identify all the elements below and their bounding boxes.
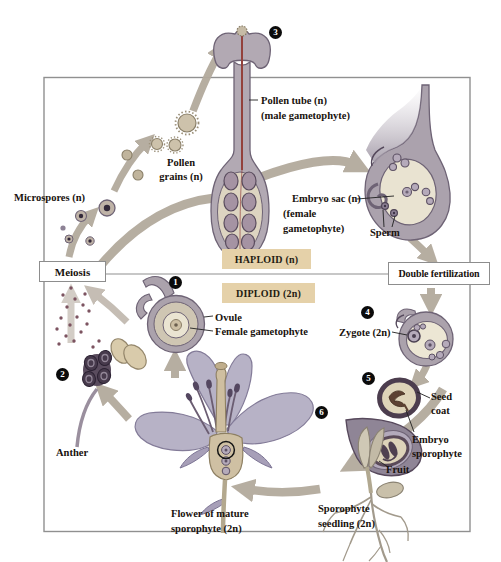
seed-coat-label: Seed coat: [431, 390, 452, 417]
angiosperm-life-cycle-diagram: Meiosis Double fertilization HAPLOID (n)…: [0, 0, 501, 562]
arrow-flower-to-anther: [105, 393, 129, 419]
flower-label: Flower of mature sporophyte (2n): [171, 506, 249, 536]
ovule-label: Ovule: [215, 311, 242, 325]
zygote-illustration: [396, 309, 453, 366]
arrow-zygote-to-seed: [418, 365, 427, 380]
step-badge-5: 5: [362, 372, 375, 385]
anther-label: Anther: [56, 446, 88, 460]
step-badge-3: 3: [269, 26, 282, 39]
arrow-microspores-to-pollen-grains: [114, 143, 146, 191]
pollen-tube-illustration: [211, 26, 270, 258]
sperm-label: Sperm: [370, 226, 400, 240]
female-gametophyte-label: Female gametophyte: [215, 325, 308, 339]
microspores-label: Microspores (n): [14, 191, 85, 205]
diploid-band: DIPLOID (2n): [222, 283, 315, 303]
fruit-label: Fruit: [386, 463, 409, 477]
haploid-band: HAPLOID (n): [222, 249, 311, 269]
embryo-sac-label: Embryo sac (n): [292, 192, 361, 206]
double-fertilization-box-label: Double fertilization: [398, 268, 479, 279]
embryo-sac-label-cont: (female gametophyte): [283, 206, 344, 236]
meiosis-box: Meiosis: [39, 261, 106, 282]
arrow-seedling-to-flower: [246, 489, 320, 492]
step-badge-4: 4: [361, 306, 374, 319]
sporophyte-seedling-label: Sporophyte seedling (2n): [318, 501, 375, 531]
diploid-band-label: DIPLOID (2n): [236, 288, 301, 299]
meiosis-box-label: Meiosis: [55, 266, 90, 278]
pollen-tube-label: Pollen tube (n) (male gametophyte): [261, 93, 350, 123]
arrow-embryo-sac-to-double-fertilization: [410, 238, 429, 256]
double-fertilization-box: Double fertilization: [388, 262, 490, 285]
seed-illustration: [376, 376, 422, 419]
pollen-grains-label: Pollen grains (n): [152, 156, 210, 183]
step-badge-2: 2: [56, 368, 69, 381]
ovule-illustration: [136, 277, 204, 353]
arrow-ovule-to-meiosis: [94, 293, 127, 322]
embryo-sporophyte-label: Embryo sporophyte: [412, 433, 462, 460]
zygote-label: Zygote (2n): [339, 326, 391, 340]
embryo-sac-illustration: [365, 85, 450, 240]
haploid-band-label: HAPLOID (n): [235, 254, 299, 265]
step-badge-1: 1: [169, 276, 182, 289]
step-badge-6: 6: [315, 406, 328, 419]
